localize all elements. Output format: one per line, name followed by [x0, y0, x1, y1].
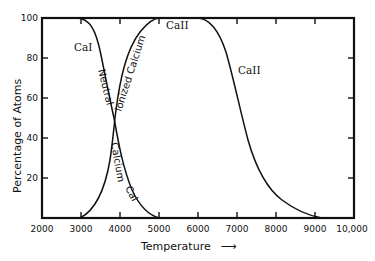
svg-text:2000: 2000: [31, 224, 54, 234]
y-ticks: [42, 58, 354, 178]
svg-text:5000: 5000: [148, 224, 171, 234]
annotation-cai-top: CaI: [74, 41, 92, 53]
svg-text:8000: 8000: [265, 224, 288, 234]
x-tick-labels: 2000 3000 4000 5000 6000 7000 8000 9000 …: [31, 224, 368, 234]
annotation-caii-top: CaII: [166, 19, 189, 31]
svg-text:60: 60: [27, 93, 39, 103]
svg-text:3000: 3000: [70, 224, 93, 234]
svg-text:4000: 4000: [109, 224, 132, 234]
svg-text:10,000: 10,000: [336, 224, 368, 234]
y-axis-label: Percentage of Atoms: [11, 78, 24, 193]
x-axis-label: Temperature: [140, 240, 211, 253]
annotation-caii-right: CaII: [238, 64, 261, 76]
annotation-neutral: Neutral: [96, 68, 116, 106]
x-axis-arrow: ⟶: [221, 240, 237, 253]
svg-text:7000: 7000: [226, 224, 249, 234]
x-ticks: [81, 18, 315, 218]
svg-text:100: 100: [21, 13, 38, 23]
ionization-chart: 2000 3000 4000 5000 6000 7000 8000 9000 …: [0, 0, 375, 261]
caii-ionized-curve: [80, 18, 354, 218]
svg-text:9000: 9000: [304, 224, 327, 234]
svg-text:40: 40: [27, 133, 39, 143]
svg-text:6000: 6000: [187, 224, 210, 234]
svg-text:20: 20: [27, 173, 39, 183]
annotation-ionized-calcium: Ionized Calcium: [112, 34, 147, 113]
svg-text:80: 80: [27, 53, 39, 63]
annotation-calcium-low: Calcium: [109, 141, 127, 183]
